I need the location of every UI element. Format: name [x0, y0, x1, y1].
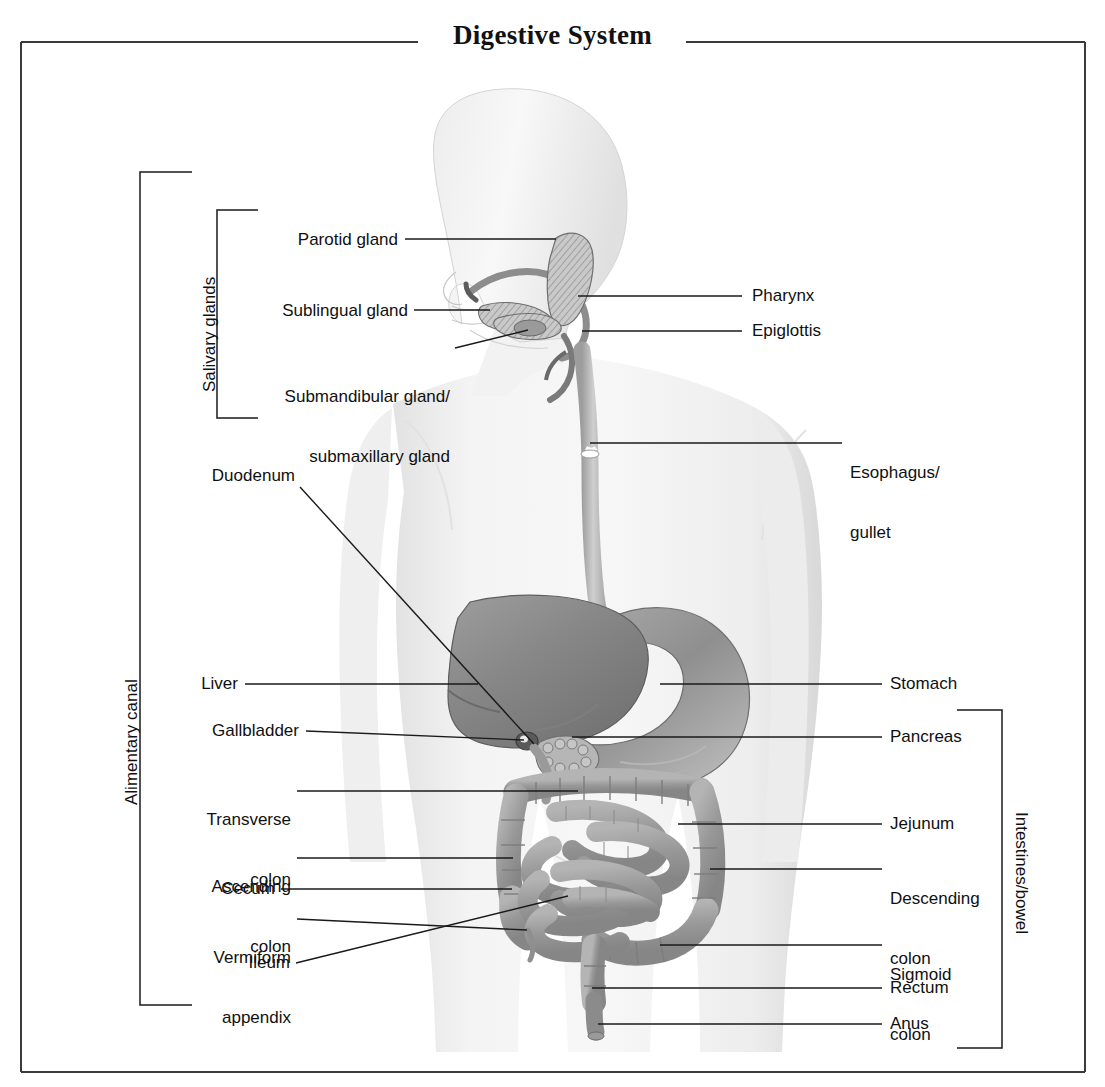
label-vermiform-appendix: Vermiform appendix [120, 908, 291, 1068]
digestive-system-figure: Digestive System Alimentary canal Saliva… [0, 0, 1105, 1087]
label-submandibular-gland-line2: submaxillary gland [120, 447, 450, 467]
label-jejunum: Jejunum [890, 814, 954, 834]
bracket-label-intestines: Intestines/bowel [1011, 812, 1031, 934]
label-esophagus: Esophagus/ gullet [850, 423, 940, 583]
label-cecum: Cecum [120, 879, 275, 899]
label-sublingual-gland: Sublingual gland [120, 301, 408, 321]
label-transverse-colon-line1: Transverse [120, 810, 291, 830]
label-pancreas: Pancreas [890, 727, 962, 747]
label-submandibular-gland-line1: Submandibular gland/ [120, 387, 450, 407]
label-ileum: Ileum [120, 953, 290, 973]
label-gallbladder: Gallbladder [120, 721, 299, 741]
label-sigmoid-colon: Sigmoid colon [890, 925, 951, 1085]
label-vermiform-appendix-line2: appendix [120, 1008, 291, 1028]
label-epiglottis: Epiglottis [752, 321, 821, 341]
label-descending-colon-line1: Descending [890, 889, 980, 909]
label-parotid-gland: Parotid gland [120, 230, 398, 250]
label-liver: Liver [120, 674, 238, 694]
label-esophagus-line1: Esophagus/ [850, 463, 940, 483]
label-duodenum: Duodenum [120, 466, 295, 486]
label-esophagus-line2: gullet [850, 523, 940, 543]
label-rectum: Rectum [890, 978, 949, 998]
label-stomach: Stomach [890, 674, 957, 694]
label-anus: Anus [890, 1014, 929, 1034]
right-leader-lines [572, 296, 882, 1024]
label-pharynx: Pharynx [752, 286, 814, 306]
